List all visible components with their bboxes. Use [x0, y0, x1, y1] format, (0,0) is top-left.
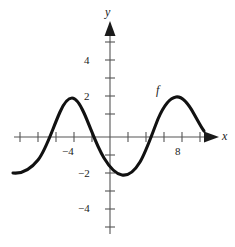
- function-curve-f: [13, 97, 204, 175]
- y-tick-label-2: 2: [84, 91, 90, 102]
- x-tick-label-8: 8: [175, 146, 181, 157]
- graph-canvas: [0, 0, 235, 247]
- function-graph-figure: 4 2 −2 −4 −4 8 x y f: [0, 0, 235, 247]
- x-tick-label-minus-4: −4: [62, 146, 74, 157]
- y-tick-label-minus-2: −2: [78, 168, 90, 179]
- y-tick-label-minus-4: −4: [78, 203, 90, 214]
- y-tick-label-4: 4: [84, 55, 90, 66]
- x-axis-label: x: [222, 130, 227, 142]
- x-axis-arrowhead: [204, 132, 219, 143]
- y-axis-label: y: [105, 6, 110, 18]
- y-axis-arrowhead: [105, 21, 116, 36]
- function-label-f: f: [156, 84, 159, 96]
